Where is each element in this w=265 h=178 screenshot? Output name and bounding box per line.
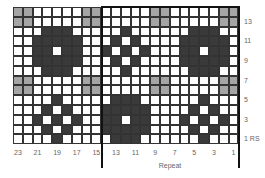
chart-cell (82, 27, 92, 37)
chart-cell (13, 56, 23, 66)
chart-cell (62, 17, 72, 27)
chart-cell (52, 36, 62, 46)
chart-cell (72, 7, 82, 17)
chart-cell (23, 134, 33, 144)
repeat-right-line (238, 6, 240, 168)
chart-cell (42, 36, 52, 46)
chart-cell (33, 125, 43, 135)
chart-cell (33, 7, 43, 17)
chart-cell (23, 56, 33, 66)
chart-cell (91, 7, 101, 17)
chart-cell (33, 66, 43, 76)
chart-cell (91, 76, 101, 86)
x-tick-label: 11 (132, 149, 139, 156)
chart-cell (62, 46, 72, 56)
y-tick-label: 7 (244, 77, 248, 84)
chart-cell (62, 134, 72, 144)
chart-cell (42, 56, 52, 66)
chart-cell (91, 27, 101, 37)
chart-cell (23, 66, 33, 76)
chart-cell (62, 105, 72, 115)
chart-cell (42, 46, 52, 56)
chart-cell (82, 125, 92, 135)
chart-cell (13, 36, 23, 46)
chart-cell (52, 7, 62, 17)
chart-cell (13, 17, 23, 27)
chart-cell (62, 7, 72, 17)
x-tick-label: 5 (192, 149, 196, 156)
chart-cell (42, 85, 52, 95)
x-tick-label: 21 (34, 149, 42, 156)
chart-cell (91, 46, 101, 56)
chart-cell (13, 66, 23, 76)
chart-cell (82, 76, 92, 86)
chart-cell (33, 85, 43, 95)
chart-cell (42, 105, 52, 115)
chart-cell (23, 76, 33, 86)
chart-cell (72, 125, 82, 135)
chart-cell (13, 76, 23, 86)
chart-cell (91, 115, 101, 125)
y-tick-label: 11 (244, 37, 251, 44)
chart-cell (33, 27, 43, 37)
chart-cell (62, 56, 72, 66)
chart-cell (91, 125, 101, 135)
chart-cell (23, 7, 33, 17)
chart-cell (52, 125, 62, 135)
chart-cell (13, 46, 23, 56)
chart-cell (52, 76, 62, 86)
chart-cell (23, 17, 33, 27)
chart-cell (23, 95, 33, 105)
x-tick-label: 1 (232, 149, 236, 156)
chart-cell (23, 36, 33, 46)
chart-cell (82, 17, 92, 27)
chart-cell (82, 95, 92, 105)
chart-cell (82, 134, 92, 144)
chart-cell (42, 76, 52, 86)
chart-cell (91, 105, 101, 115)
chart-cell (72, 76, 82, 86)
chart-cell (52, 105, 62, 115)
chart-cell (13, 125, 23, 135)
chart-cell (82, 46, 92, 56)
x-tick-label: 15 (92, 149, 100, 156)
chart-cell (72, 115, 82, 125)
chart-cell (62, 125, 72, 135)
chart-cell (62, 95, 72, 105)
x-tick-label: 23 (14, 149, 22, 156)
chart-cell (23, 27, 33, 37)
chart-cell (72, 27, 82, 37)
chart-cell (72, 17, 82, 27)
chart-cell (13, 95, 23, 105)
chart-cell (91, 95, 101, 105)
chart-cell (72, 134, 82, 144)
x-tick-label: 3 (212, 149, 216, 156)
chart-cell (42, 125, 52, 135)
y-tick-label: 5 (244, 96, 248, 103)
repeat-label: Repeat (159, 162, 182, 169)
chart-cell (72, 46, 82, 56)
chart-cell (82, 105, 92, 115)
x-tick-label: 9 (153, 149, 157, 156)
chart-cell (52, 27, 62, 37)
repeat-bracket (101, 6, 240, 145)
chart-cell (13, 105, 23, 115)
chart-cell (72, 66, 82, 76)
chart-cell (72, 95, 82, 105)
chart-cell (91, 66, 101, 76)
chart-cell (82, 56, 92, 66)
y-tick-label: 1 RS (244, 135, 260, 142)
chart-cell (33, 46, 43, 56)
y-tick-label: 3 (244, 116, 248, 123)
chart-cell (91, 134, 101, 144)
x-tick-label: 19 (53, 149, 61, 156)
chart-cell (23, 105, 33, 115)
chart-cell (42, 17, 52, 27)
chart-cell (52, 17, 62, 27)
x-tick-label: 7 (173, 149, 177, 156)
chart-cell (91, 36, 101, 46)
chart-cell (62, 36, 72, 46)
x-tick-label: 17 (73, 149, 81, 156)
y-tick-label: 9 (244, 57, 248, 64)
chart-cell (13, 115, 23, 125)
